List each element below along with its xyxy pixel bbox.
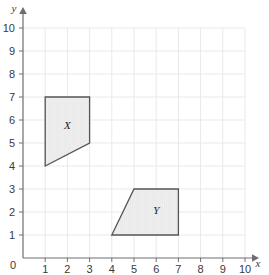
x-axis-label: x [255, 257, 261, 269]
y-axis-label: y [11, 2, 17, 14]
y-tick-label: 4 [9, 160, 15, 172]
y-tick-label: 2 [9, 206, 15, 218]
x-tick-label: 5 [131, 263, 137, 275]
x-tick-label: 1 [42, 263, 48, 275]
x-tick-label: 4 [109, 263, 115, 275]
shape-label-x: X [63, 119, 72, 131]
y-tick-label: 6 [9, 114, 15, 126]
x-tick-label: 7 [175, 263, 181, 275]
x-tick-label: 2 [64, 263, 70, 275]
y-tick-label: 3 [9, 183, 15, 195]
y-tick-label: 9 [9, 45, 15, 57]
y-tick-label: 5 [9, 137, 15, 149]
y-tick-label: 8 [9, 68, 15, 80]
x-tick-label: 9 [220, 263, 226, 275]
origin-tick-label: 0 [10, 259, 16, 271]
x-tick-label: 3 [87, 263, 93, 275]
y-tick-label: 10 [3, 22, 15, 34]
coordinate-grid-svg: 1234567891012345678910 x y 0 XY [0, 0, 269, 275]
x-tick-label: 10 [239, 263, 251, 275]
coordinate-plane: 1234567891012345678910 x y 0 XY [0, 0, 269, 275]
y-tick-label: 7 [9, 91, 15, 103]
y-tick-label: 1 [9, 229, 15, 241]
x-tick-label: 8 [198, 263, 204, 275]
x-tick-label: 6 [153, 263, 159, 275]
